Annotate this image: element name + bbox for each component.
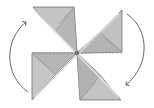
- pinwheel-illustration: [0, 0, 154, 108]
- pinwheel-diagram: [0, 0, 154, 108]
- rotate-arrow-right-icon: [126, 14, 144, 85]
- center-pin: [75, 51, 79, 55]
- rotate-arrow-left-icon: [10, 22, 28, 92]
